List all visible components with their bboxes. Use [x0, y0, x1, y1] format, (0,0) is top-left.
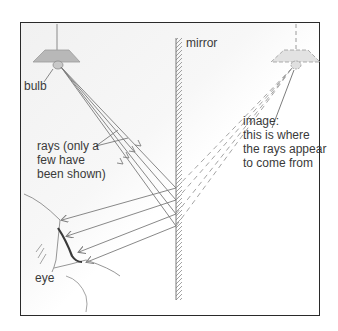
virtual-lamp-icon — [271, 24, 320, 128]
lamp-icon — [33, 24, 80, 82]
eye-label: eye — [35, 271, 54, 285]
diagram-figure: bulb mirror rays (only a few have been s… — [0, 0, 338, 331]
eye-icon — [24, 194, 120, 312]
image-label: image: this is where the rays appear to … — [243, 114, 326, 170]
reflected-rays — [62, 188, 176, 262]
bulb-label: bulb — [24, 79, 47, 93]
mirror-icon — [176, 38, 182, 300]
rays-label: rays (only a few have been shown) — [37, 139, 106, 181]
mirror-label: mirror — [186, 36, 217, 50]
